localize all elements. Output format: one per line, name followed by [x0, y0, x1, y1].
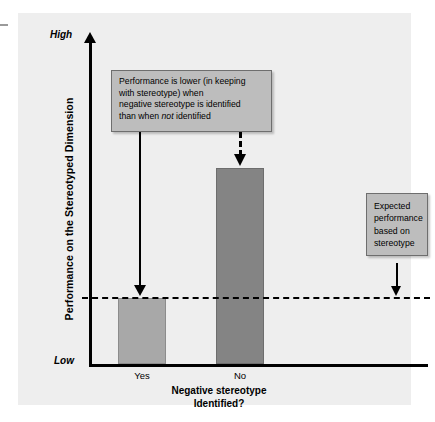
solid-arrow-stem	[139, 132, 141, 287]
x-axis-title-line1: Negative stereotype	[89, 385, 349, 398]
callout-main-line1: Performance is lower (in keeping	[119, 76, 265, 88]
solid-arrow-down-icon	[134, 285, 146, 296]
dashed-arrow-stem	[239, 132, 242, 156]
callout-expected: Expected performance based on stereotype	[366, 193, 428, 256]
x-tick-label-yes: Yes	[112, 370, 172, 381]
x-axis-title-line2: Identified?	[89, 398, 349, 411]
callout-main-line4: than when not identified	[119, 111, 265, 123]
dashed-arrow-down-icon	[234, 154, 246, 166]
callout-expected-line1: Expected	[374, 200, 427, 212]
y-axis-title: Performance on the Stereotyped Dimension	[63, 94, 75, 324]
y-axis-low-label: Low	[54, 355, 74, 366]
y-axis-arrow-icon	[84, 32, 96, 43]
callout-main-line2: with stereotype) when	[119, 88, 265, 100]
figure-panel: High Low Performance on the Stereotyped …	[18, 13, 411, 405]
callout-main-line3: negative stereotype is identified	[119, 99, 265, 111]
x-axis-line	[89, 364, 428, 367]
callout-main-line4-italic: not	[162, 111, 174, 121]
page-edge-artifact	[0, 24, 8, 26]
callout-main-line4-before: than when	[119, 111, 162, 121]
expected-performance-reference-line	[82, 297, 430, 299]
callout-main: Performance is lower (in keeping with st…	[111, 70, 272, 132]
callout-expected-line2: performance	[374, 212, 427, 224]
callout-main-line4-after: identified	[174, 111, 211, 121]
x-axis-title: Negative stereotype Identified?	[89, 385, 349, 410]
x-tick-label-no: No	[210, 370, 270, 381]
bar-yes	[118, 298, 166, 364]
y-axis-line	[89, 41, 92, 366]
bar-no	[216, 168, 264, 364]
callout-expected-line4: stereotype	[374, 237, 427, 249]
expected-arrow-down-icon	[391, 286, 401, 296]
y-axis-high-label: High	[50, 29, 72, 40]
callout-expected-line3: based on	[374, 225, 427, 237]
